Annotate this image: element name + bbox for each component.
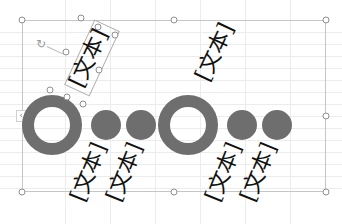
rotate-icon[interactable]: ↻ [36,38,48,50]
resize-handle-top[interactable] [171,17,178,24]
resize-handle-right[interactable] [323,113,330,120]
text-box-handle[interactable] [78,15,85,22]
text-box-handle[interactable] [64,94,71,101]
resize-handle-bottom[interactable] [171,189,178,196]
ring-shape-2[interactable] [158,95,218,155]
resize-handle-top-right[interactable] [323,17,330,24]
slide-canvas[interactable]: ‹ ↻ [文本] [文本] [文本] [文本] [文本] [文本] [0,0,342,224]
resize-handle-bottom-right[interactable] [323,189,330,196]
text-box-handle[interactable] [80,101,87,108]
circle-shape-2[interactable] [126,110,156,140]
text-box-handle[interactable] [47,87,54,94]
circle-shape-3[interactable] [227,110,257,140]
ring-shape-1[interactable] [22,95,82,155]
resize-handle-bottom-left[interactable] [19,189,26,196]
text-box-handle[interactable] [63,49,70,56]
resize-handle-top-left[interactable] [19,17,26,24]
circle-shape-1[interactable] [91,110,121,140]
circle-shape-4[interactable] [262,110,292,140]
